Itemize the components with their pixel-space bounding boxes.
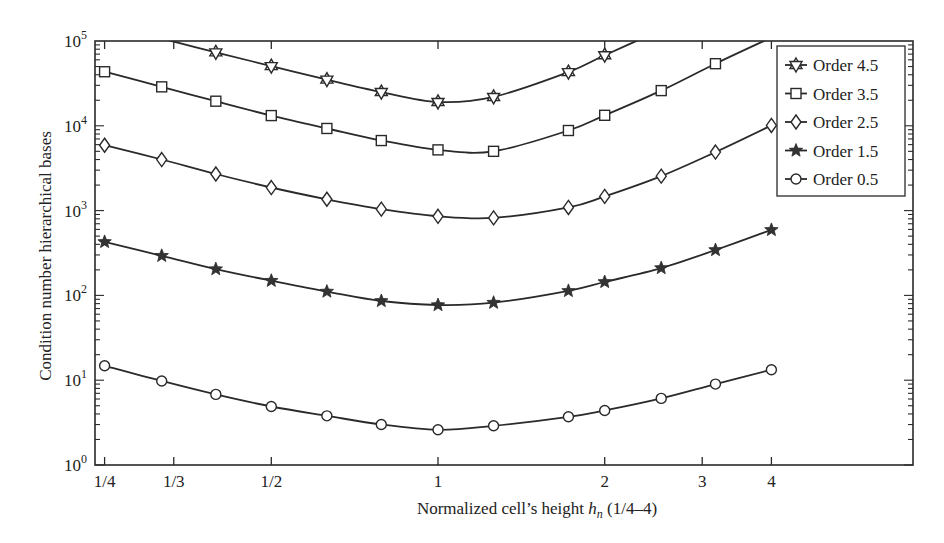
x-tick-label: 1 (434, 472, 443, 491)
x-axis-title-var: h (588, 499, 597, 518)
data-point (710, 59, 720, 69)
y-tick-base: 10 (64, 286, 81, 305)
y-tick-label: 105 (64, 28, 87, 51)
data-point (157, 153, 167, 167)
data-point (376, 136, 386, 146)
data-point (322, 192, 332, 206)
data-point (433, 145, 443, 155)
data-point (433, 425, 443, 435)
data-point (211, 167, 221, 181)
data-point (375, 85, 387, 99)
data-point (210, 45, 222, 59)
data-point (656, 86, 666, 96)
data-point (656, 393, 666, 403)
y-tick-label: 101 (64, 367, 87, 390)
legend-label: Order 0.5 (813, 170, 878, 189)
data-point (656, 169, 666, 183)
data-point (600, 189, 610, 203)
x-tick-label: 1/4 (94, 472, 116, 491)
data-point (100, 361, 110, 371)
data-point (265, 274, 278, 287)
data-point (322, 411, 332, 421)
data-point (157, 376, 167, 386)
legend: Order 4.5Order 3.5Order 2.5Order 1.5Orde… (777, 46, 905, 196)
y-tick-label: 103 (64, 198, 87, 221)
data-point (209, 262, 222, 275)
legend-marker-icon (791, 89, 801, 99)
data-point (266, 401, 276, 411)
data-point (489, 421, 499, 431)
data-point (376, 202, 386, 216)
data-point (100, 67, 110, 77)
data-point (489, 146, 499, 156)
data-point (157, 82, 167, 92)
y-tick-exponent: 1 (81, 367, 87, 381)
data-point (562, 65, 574, 79)
data-point (710, 379, 720, 389)
series-order-1-5 (98, 223, 778, 311)
x-tick-label: 2 (600, 472, 609, 491)
series-line (105, 230, 772, 305)
data-point (563, 200, 573, 214)
y-tick-base: 10 (64, 202, 81, 221)
data-point (563, 126, 573, 136)
y-tick-base: 10 (64, 117, 81, 136)
data-point (266, 111, 276, 121)
y-tick-exponent: 2 (81, 282, 87, 296)
data-point (100, 138, 110, 152)
x-axis-title: Normalized cell’s height hn (1/4–4) (417, 499, 657, 521)
y-tick-label: 104 (64, 113, 87, 136)
data-point (709, 243, 722, 256)
y-tick-exponent: 3 (81, 198, 87, 212)
legend-marker-icon (791, 174, 801, 184)
legend-label: Order 3.5 (813, 85, 878, 104)
data-point (98, 235, 111, 248)
data-point (600, 110, 610, 120)
data-point (320, 285, 333, 298)
data-point (766, 118, 776, 132)
y-axis-title: Condition number hierarchical bases (36, 131, 55, 381)
data-point (655, 261, 668, 274)
x-axis-title-suffix: (1/4–4) (603, 499, 657, 518)
x-tick-label: 1/2 (260, 472, 282, 491)
series-order-3-5 (100, 38, 772, 157)
data-point (376, 420, 386, 430)
data-point (265, 59, 277, 73)
data-point (765, 223, 778, 236)
y-tick-label: 100 (64, 452, 87, 475)
data-point (562, 284, 575, 297)
legend-label: Order 4.5 (813, 56, 878, 75)
data-point (375, 294, 388, 307)
series-layer (98, 30, 778, 435)
data-point (766, 365, 776, 375)
legend-label: Order 2.5 (813, 113, 878, 132)
data-point (598, 275, 611, 288)
data-point (211, 389, 221, 399)
data-point (321, 73, 333, 87)
y-tick-base: 10 (64, 456, 81, 475)
data-point (487, 296, 500, 309)
data-point (433, 209, 443, 223)
data-point (266, 181, 276, 195)
data-point (599, 48, 611, 62)
y-tick-exponent: 4 (81, 113, 87, 127)
series-line (105, 366, 772, 430)
data-point (489, 211, 499, 225)
data-point (431, 298, 444, 311)
data-point (563, 412, 573, 422)
y-tick-label: 102 (64, 282, 87, 305)
y-tick-base: 10 (64, 371, 81, 390)
data-point (155, 249, 168, 262)
legend-label: Order 1.5 (813, 142, 878, 161)
data-point (211, 96, 221, 106)
data-point (710, 145, 720, 159)
y-tick-exponent: 5 (81, 28, 87, 42)
series-order-0-5 (100, 361, 777, 435)
data-point (488, 90, 500, 104)
series-order-2-5 (100, 118, 777, 224)
data-point (600, 405, 610, 415)
x-axis-title-prefix: Normalized cell’s height (417, 499, 588, 518)
data-point (322, 123, 332, 133)
x-tick-label: 4 (767, 472, 776, 491)
y-tick-base: 10 (64, 32, 81, 51)
